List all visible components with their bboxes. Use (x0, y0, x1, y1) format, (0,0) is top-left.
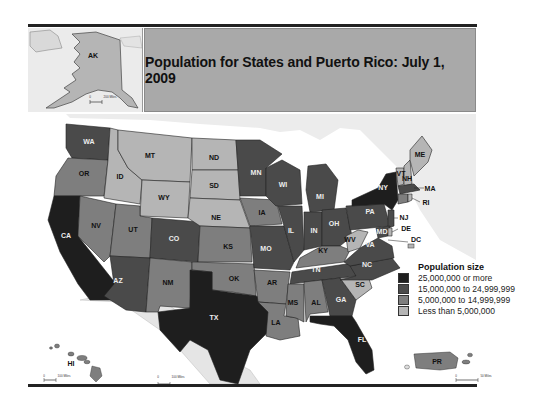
svg-text:TX: TX (210, 314, 219, 321)
svg-text:MO: MO (260, 245, 272, 252)
svg-text:NE: NE (211, 214, 221, 221)
hawaii-inset: HI 0 100 Miles (43, 344, 102, 382)
state-la (258, 302, 300, 340)
svg-text:100 Miles: 100 Miles (172, 375, 185, 379)
state-nc (340, 258, 400, 280)
legend-label: 5,000,000 to 14,999,999 (418, 295, 510, 305)
svg-text:ND: ND (209, 154, 219, 161)
bottom-rule (28, 384, 477, 387)
svg-text:WV: WV (344, 236, 356, 243)
alaska-scale-label: 200 Miles (104, 95, 117, 99)
state-mt (118, 130, 192, 182)
svg-text:KY: KY (318, 247, 328, 254)
svg-text:MA: MA (425, 185, 436, 192)
svg-text:50 Miles: 50 Miles (480, 374, 492, 378)
svg-text:100 Miles: 100 Miles (58, 374, 71, 378)
state-sd (190, 170, 240, 200)
legend-label: 25,000,000 or more (418, 273, 492, 283)
svg-text:AZ: AZ (113, 277, 123, 284)
svg-text:ME: ME (415, 151, 426, 158)
top-rule (28, 24, 477, 27)
state-ia (240, 198, 282, 226)
svg-text:OR: OR (79, 170, 90, 177)
legend-swatch (398, 306, 409, 316)
legend-item: 5,000,000 to 14,999,999 (398, 294, 515, 305)
state-nm (146, 258, 192, 312)
state-wv (346, 230, 368, 252)
svg-text:SC: SC (355, 281, 365, 288)
svg-text:SD: SD (209, 182, 219, 189)
state-sc (340, 276, 372, 300)
svg-text:IL: IL (288, 227, 295, 234)
svg-text:MN: MN (251, 169, 262, 176)
state-ky (296, 246, 350, 268)
puerto-rico-inset: PR 0 50 Miles (405, 352, 493, 382)
svg-text:0: 0 (157, 375, 159, 379)
state-al (304, 280, 328, 322)
alaska-scale-zero: 0 (89, 95, 91, 99)
state-mi (306, 164, 338, 212)
alaska-label: AK (88, 52, 98, 59)
legend: Population size 25,000,000 or more 15,00… (398, 262, 515, 316)
state-wa (66, 124, 110, 160)
state-mn (236, 140, 282, 196)
legend-item: 15,000,000 to 24,999,999 (398, 283, 515, 294)
svg-text:PA: PA (365, 208, 374, 215)
state-tn (290, 262, 360, 284)
svg-text:WI: WI (279, 181, 288, 188)
svg-text:NY: NY (378, 184, 388, 191)
state-md (376, 226, 390, 238)
svg-text:OH: OH (329, 220, 340, 227)
svg-text:0: 0 (43, 374, 45, 378)
state-ks (198, 226, 252, 262)
svg-text:DE: DE (401, 225, 411, 232)
svg-text:IA: IA (259, 209, 266, 216)
state-wi (266, 160, 302, 206)
alaska-inset: AK 0 200 Miles (28, 28, 143, 112)
legend-label: 15,000,000 to 24,999,999 (418, 284, 515, 294)
state-ar (254, 270, 290, 304)
svg-text:GA: GA (336, 296, 347, 303)
map-title: Population for States and Puerto Rico: J… (145, 54, 475, 86)
svg-text:UT: UT (128, 226, 138, 233)
state-id (104, 128, 142, 204)
state-nd (192, 138, 238, 170)
state-nv (78, 196, 116, 262)
svg-text:IN: IN (311, 227, 318, 234)
state-ny (352, 172, 398, 210)
state-fl (310, 316, 374, 374)
svg-text:ID: ID (117, 173, 124, 180)
legend-swatch (398, 284, 409, 294)
alaska-map: AK 0 200 Miles (28, 28, 143, 112)
svg-text:NC: NC (362, 261, 372, 268)
svg-text:FL: FL (358, 336, 367, 343)
state-ca (48, 196, 116, 300)
state-oh (322, 208, 352, 246)
svg-text:LA: LA (271, 319, 280, 326)
svg-text:WA: WA (83, 138, 94, 145)
legend-label: Less than 5,000,000 (418, 306, 495, 316)
svg-text:MT: MT (145, 152, 156, 159)
svg-text:PR: PR (432, 358, 442, 365)
state-nj (388, 210, 394, 228)
svg-text:TN: TN (311, 266, 320, 273)
state-va (344, 238, 394, 266)
state-ga (322, 278, 356, 316)
state-me (410, 136, 432, 176)
legend-swatch (398, 273, 409, 283)
svg-text:MI: MI (316, 193, 324, 200)
svg-text:CO: CO (169, 235, 180, 242)
svg-text:NJ: NJ (400, 214, 409, 221)
svg-text:HI: HI (68, 360, 75, 367)
svg-text:VT: VT (397, 170, 407, 177)
svg-text:AR: AR (267, 279, 277, 286)
svg-text:WY: WY (158, 194, 170, 201)
state-ut (110, 204, 152, 258)
legend-swatch (398, 295, 409, 305)
state-vt (396, 168, 404, 186)
state-ri (408, 194, 412, 202)
svg-text:MD: MD (377, 228, 388, 235)
legend-item: Less than 5,000,000 (398, 305, 515, 316)
state-ne (188, 198, 250, 228)
state-ct (398, 194, 408, 204)
